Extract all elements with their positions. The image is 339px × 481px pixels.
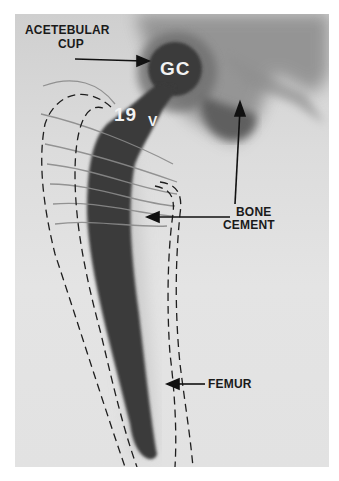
implant-marking-neck: 19 <box>114 105 137 124</box>
femur-label: FEMUR <box>208 378 252 390</box>
bone-cement-label-line2: CEMENT <box>223 219 275 231</box>
radiograph-frame: ACETEBULAR CUP GC 19 V BONE CEMENT FEMUR <box>15 14 329 467</box>
bone-cement-label-line1: BONE <box>236 206 271 218</box>
implant-marking-head: GC <box>160 59 191 78</box>
implant-marking-symbol: V <box>148 112 158 131</box>
acetabular-cup-label-line1: ACETEBULAR <box>25 24 110 36</box>
acetabular-cup-label-line2: CUP <box>58 38 84 50</box>
femoral-stem <box>87 84 175 459</box>
radiograph-image <box>15 14 329 467</box>
